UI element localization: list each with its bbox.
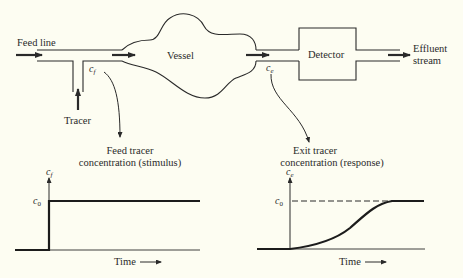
cf-pointer-arrow-icon bbox=[104, 72, 120, 137]
response-c0-label: c0 bbox=[275, 195, 283, 210]
diagram-drawing bbox=[0, 0, 463, 278]
response-y-axis-label: ce bbox=[286, 166, 294, 181]
vessel-label: Vessel bbox=[167, 50, 194, 62]
stimulus-y-axis-label: cf bbox=[46, 166, 52, 181]
tracer-label: Tracer bbox=[64, 115, 91, 127]
ce-symbol-label: ce bbox=[266, 62, 274, 77]
detector-label: Detector bbox=[308, 49, 344, 61]
effluent-label-line1: Effluent bbox=[413, 43, 447, 55]
detector-box bbox=[299, 28, 400, 50]
cf-symbol-label: cf bbox=[89, 63, 95, 78]
feed-caption-line2: concentration (stimulus) bbox=[60, 157, 200, 169]
response-graph bbox=[257, 178, 425, 249]
exit-caption-line2: concentration (response) bbox=[262, 157, 402, 169]
tracer-experiment-diagram: Feed line Tracer Vessel Detector Effluen… bbox=[0, 0, 463, 278]
ce-pointer-arrow-icon bbox=[271, 74, 309, 142]
stimulus-graph bbox=[15, 178, 200, 250]
feed-caption-line1: Feed tracer bbox=[90, 145, 170, 157]
exit-caption-line1: Exit tracer bbox=[275, 145, 355, 157]
stimulus-c0-label: c0 bbox=[33, 195, 41, 210]
feed-line-label: Feed line bbox=[17, 37, 56, 49]
stimulus-time-label: Time bbox=[114, 256, 136, 268]
response-time-label: Time bbox=[339, 256, 361, 268]
effluent-label-line2: stream bbox=[413, 55, 441, 67]
stimulus-step-curve bbox=[15, 201, 200, 250]
feed-pipe bbox=[37, 50, 122, 92]
